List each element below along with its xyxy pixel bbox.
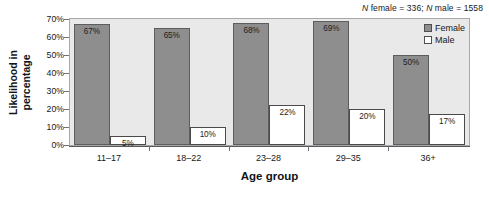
bar-chart-figure: N female = 336; N male = 1558 Likelihood…: [0, 0, 489, 197]
bar-value-label: 20%: [350, 112, 384, 121]
bar-female-0[interactable]: 67%: [74, 24, 110, 145]
y-axis-title-line2: percentage: [19, 54, 31, 110]
plot-inner: 67%5%65%10%68%22%69%20%50%17%: [70, 19, 469, 145]
bar-male-1[interactable]: 10%: [190, 127, 226, 145]
y-tick-mark: [64, 55, 69, 56]
bar-value-label: 69%: [314, 24, 348, 33]
x-tick-label: 29–35: [336, 153, 361, 163]
y-tick-label: 20%: [38, 104, 64, 114]
bar-male-2[interactable]: 22%: [269, 105, 305, 145]
n-male-text: male = 1558: [432, 3, 483, 13]
x-tick-label: 23–28: [256, 153, 281, 163]
y-axis-title-line1: Likelihood in: [7, 50, 19, 115]
bar-group: 69%20%: [309, 19, 389, 145]
bar-female-2[interactable]: 68%: [233, 23, 269, 145]
x-tick-label: 18–22: [176, 153, 201, 163]
y-tick-label: 40%: [38, 68, 64, 78]
legend-label-male: Male: [435, 35, 455, 45]
legend-item-male: Male: [424, 35, 465, 45]
bar-value-label: 68%: [234, 26, 268, 35]
y-tick-mark: [64, 127, 69, 128]
y-tick-mark: [64, 91, 69, 92]
y-axis-ticks: 0%10%20%30%40%50%60%70%: [38, 18, 64, 146]
x-tick-label: 11–17: [97, 153, 121, 163]
x-axis-title: Age group: [69, 170, 470, 182]
bar-value-label: 65%: [155, 31, 189, 40]
x-tick-mark: [308, 146, 309, 151]
plot-area: 67%5%65%10%68%22%69%20%50%17% Female Mal…: [69, 18, 470, 146]
legend: Female Male: [424, 23, 465, 47]
bar-value-label: 17%: [430, 117, 464, 126]
bar-male-0[interactable]: 5%: [110, 136, 146, 145]
bar-female-1[interactable]: 65%: [154, 28, 190, 145]
y-axis-title-wrap: Likelihood in percentage: [0, 18, 38, 146]
bar-group: 67%5%: [70, 19, 150, 145]
bar-female-3[interactable]: 69%: [313, 21, 349, 145]
legend-swatch-male-icon: [424, 36, 432, 44]
bar-male-3[interactable]: 20%: [349, 109, 385, 145]
x-axis-line: [69, 146, 470, 147]
y-axis-title: Likelihood in percentage: [7, 50, 32, 115]
bar-value-label: 67%: [75, 27, 109, 36]
y-tick-label: 10%: [38, 122, 64, 132]
n-female-text: female = 336;: [368, 3, 426, 13]
y-tick-label: 60%: [38, 32, 64, 42]
x-tick-mark: [149, 146, 150, 151]
bar-female-4[interactable]: 50%: [393, 55, 429, 145]
x-axis-tick-labels: 11–1718–2223–2829–3536+: [69, 153, 470, 167]
y-tick-label: 50%: [38, 50, 64, 60]
bar-group: 65%10%: [150, 19, 230, 145]
x-tick-mark: [388, 146, 389, 151]
y-tick-mark: [64, 109, 69, 110]
legend-label-female: Female: [435, 23, 465, 33]
bar-male-4[interactable]: 17%: [429, 114, 465, 145]
bar-value-label: 50%: [394, 58, 428, 67]
y-tick-label: 70%: [38, 14, 64, 24]
bar-value-label: 22%: [270, 108, 304, 117]
y-tick-label: 0%: [38, 140, 64, 150]
y-tick-mark: [64, 73, 69, 74]
bar-group: 68%22%: [230, 19, 310, 145]
bar-value-label: 10%: [191, 130, 225, 139]
x-tick-label: 36+: [420, 153, 435, 163]
sample-size-annotation: N female = 336; N male = 1558: [362, 3, 483, 13]
y-tick-label: 30%: [38, 86, 64, 96]
y-tick-mark: [64, 145, 69, 146]
legend-swatch-female-icon: [424, 24, 432, 32]
x-tick-mark: [229, 146, 230, 151]
legend-item-female: Female: [424, 23, 465, 33]
y-tick-mark: [64, 37, 69, 38]
y-tick-mark: [64, 19, 69, 20]
